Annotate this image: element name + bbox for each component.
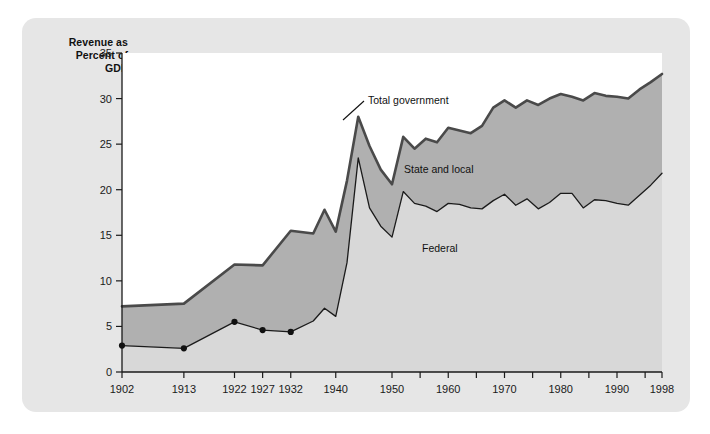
- x-tick-label-1927: 1927: [250, 383, 274, 395]
- x-tick-label-1980: 1980: [549, 383, 573, 395]
- y-tick-label-0: 0: [106, 366, 112, 378]
- y-tick-label-30: 30: [100, 93, 112, 105]
- x-tick-label-1902: 1902: [110, 383, 134, 395]
- x-tick-label-1922: 1922: [222, 383, 246, 395]
- data-marker-1913: [181, 345, 187, 351]
- data-marker-1927: [260, 327, 266, 333]
- data-marker-1922: [231, 319, 237, 325]
- y-tick-label-10: 10: [100, 275, 112, 287]
- x-tick-label-1932: 1932: [279, 383, 303, 395]
- x-tick-label-1970: 1970: [492, 383, 516, 395]
- figure-root: Revenue as Percent of GDP 05101520253035…: [0, 0, 710, 434]
- y-tick-label-20: 20: [100, 184, 112, 196]
- data-marker-1932: [288, 329, 294, 335]
- x-tick-label-1998: 1998: [650, 383, 674, 395]
- series-label-state-and-local: State and local: [404, 163, 473, 175]
- series-label-total-government: Total government: [368, 94, 449, 106]
- y-tick-label-15: 15: [100, 229, 112, 241]
- data-marker-1902: [119, 342, 125, 348]
- x-tick-label-1950: 1950: [380, 383, 404, 395]
- y-tick-label-25: 25: [100, 138, 112, 150]
- series-label-federal: Federal: [422, 242, 458, 254]
- x-tick-label-1990: 1990: [605, 383, 629, 395]
- x-tick-label-1940: 1940: [324, 383, 348, 395]
- chart-plot-svg: 0510152025303519021913192219271932194019…: [0, 0, 710, 434]
- y-tick-label-5: 5: [106, 320, 112, 332]
- x-tick-label-1913: 1913: [172, 383, 196, 395]
- y-tick-label-35: 35: [100, 47, 112, 59]
- x-tick-label-1960: 1960: [436, 383, 460, 395]
